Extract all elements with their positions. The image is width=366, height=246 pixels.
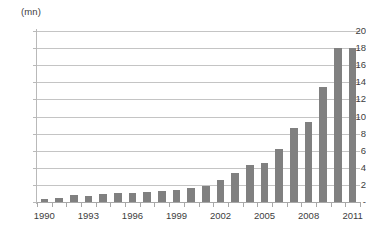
x-tick-mark xyxy=(66,202,67,207)
bar xyxy=(99,194,107,202)
bar xyxy=(129,193,137,202)
x-tick-mark xyxy=(272,202,273,207)
x-tick-mark xyxy=(287,202,288,207)
x-tick-label: 1996 xyxy=(122,210,143,221)
bar xyxy=(217,180,225,202)
x-tick-label: 1990 xyxy=(34,210,55,221)
x-tick-mark xyxy=(96,202,97,207)
x-tick-label: 2008 xyxy=(298,210,319,221)
x-tick-mark xyxy=(154,202,155,207)
bar-chart: (mn) -2468101214161820 19901993199619992… xyxy=(0,0,366,246)
bar xyxy=(246,165,254,202)
bar xyxy=(290,128,298,202)
x-tick-mark xyxy=(243,202,244,207)
x-tick-mark xyxy=(301,202,302,207)
bar xyxy=(187,188,195,202)
x-tick-label: 2005 xyxy=(254,210,275,221)
x-tick-mark xyxy=(331,202,332,207)
x-tick-label: 2002 xyxy=(210,210,231,221)
x-tick-mark xyxy=(81,202,82,207)
x-tick-mark xyxy=(257,202,258,207)
bar xyxy=(173,190,181,202)
bar xyxy=(349,48,357,202)
x-tick-mark xyxy=(37,202,38,207)
bar xyxy=(319,87,327,202)
x-tick-label: 1993 xyxy=(78,210,99,221)
x-tick-mark xyxy=(360,202,361,207)
bar-series xyxy=(37,31,360,202)
x-tick-mark xyxy=(213,202,214,207)
x-tick-mark xyxy=(125,202,126,207)
bar xyxy=(114,193,122,202)
bar xyxy=(158,191,166,202)
bar xyxy=(261,163,269,202)
y-axis-unit-label: (mn) xyxy=(21,6,41,17)
bar xyxy=(143,192,151,202)
x-tick-mark xyxy=(345,202,346,207)
x-tick-label: 1999 xyxy=(166,210,187,221)
x-tick-mark xyxy=(169,202,170,207)
x-tick-mark xyxy=(228,202,229,207)
x-tick-mark xyxy=(140,202,141,207)
x-tick-label: 2011 xyxy=(342,210,362,221)
bar xyxy=(334,48,342,202)
x-tick-mark xyxy=(110,202,111,207)
bar xyxy=(231,173,239,202)
x-tick-mark xyxy=(52,202,53,207)
x-tick-mark xyxy=(316,202,317,207)
bar xyxy=(275,149,283,202)
x-tick-mark xyxy=(184,202,185,207)
x-tick-mark xyxy=(199,202,200,207)
bar xyxy=(70,195,78,202)
bar xyxy=(202,186,210,202)
bar xyxy=(305,122,313,202)
